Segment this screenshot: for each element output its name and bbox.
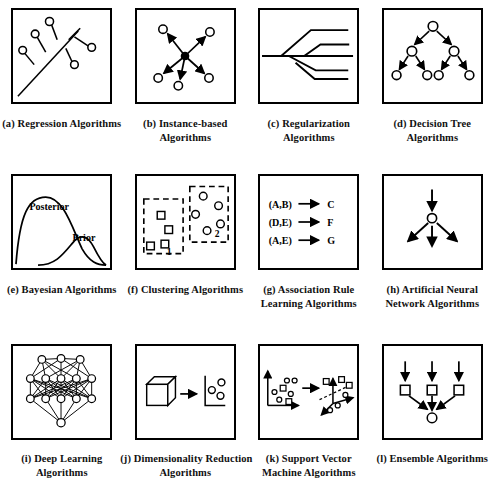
figure-panel-instance-based: (b) Instance-based Algorithms <box>124 0 248 166</box>
panel-caption-instance-based: (b) Instance-based Algorithms <box>124 117 247 145</box>
regression-line-with-residuals-icon <box>13 10 110 102</box>
panel-caption-artificial-neural-network: (h) Artificial Neural Network Algorithms <box>371 283 494 311</box>
figure-panel-decision-tree: (d) Decision Tree Algorithms <box>371 0 494 166</box>
panel-box-instance-based <box>135 8 236 104</box>
figure-panel-regression: (a) Regression Algorithms <box>0 0 124 166</box>
figure-sheet: (a) Regression Algorithms <box>0 0 494 482</box>
panel-caption-bayesian: (e) Bayesian Algorithms <box>0 283 123 297</box>
rule-1-consequent: C <box>327 199 334 210</box>
rule-2-consequent: F <box>327 217 333 228</box>
radiating-arrows-from-center-node-icon <box>137 10 234 102</box>
panel-caption-clustering: (f) Clustering Algorithms <box>124 283 247 297</box>
cluster-one-label: 1 <box>167 246 172 257</box>
implication-rules-icon: (A,B) C (D,E) F (A,E) G <box>260 176 357 268</box>
two-dashed-clusters-icon: 1 2 <box>137 176 234 268</box>
figure-panel-support-vector-machine: (k) Support Vector Machine Algorithms <box>247 336 371 482</box>
figure-panel-bayesian: Posterior Prior (e) Bayesian Algorithms <box>0 166 124 336</box>
rule-3-consequent: G <box>327 235 335 246</box>
figure-panel-artificial-neural-network: (h) Artificial Neural Network Algorithms <box>371 166 494 336</box>
posterior-label: Posterior <box>30 201 70 212</box>
panel-caption-decision-tree: (d) Decision Tree Algorithms <box>371 117 494 145</box>
panel-box-regression <box>11 8 112 104</box>
rule-1-antecedent: (A,B) <box>269 199 292 211</box>
figure-panel-ensemble: (l) Ensemble Algorithms <box>371 336 494 482</box>
2d-scatter-to-3d-hyperplane-icon <box>260 346 357 438</box>
prior-posterior-curves-icon: Posterior Prior <box>13 176 110 268</box>
figure-panel-association-rule: (A,B) C (D,E) F (A,E) G (g) Association … <box>247 166 371 336</box>
binary-tree-with-arrows-icon <box>384 10 481 102</box>
panel-box-association-rule: (A,B) C (D,E) F (A,E) G <box>258 174 359 270</box>
rule-2-antecedent: (D,E) <box>269 217 292 229</box>
cluster-two-label: 2 <box>214 228 219 239</box>
panel-box-ensemble <box>382 344 483 440</box>
rule-3-antecedent: (A,E) <box>269 235 292 247</box>
figure-panel-deep-learning: (i) Deep Learning Algorithms <box>0 336 124 482</box>
three-models-combined-icon <box>384 346 481 438</box>
cube-to-2d-plot-icon <box>137 346 234 438</box>
panel-box-dimensionality-reduction <box>135 344 236 440</box>
panel-box-deep-learning <box>11 344 112 440</box>
panel-box-decision-tree <box>382 8 483 104</box>
figure-panel-regularization: (c) Regularization Algorithms <box>247 0 371 166</box>
panel-caption-ensemble: (l) Ensemble Algorithms <box>371 452 494 466</box>
figure-panel-clustering: 1 2 (f) Clustering Algorithms <box>124 166 248 336</box>
panel-box-artificial-neural-network <box>382 174 483 270</box>
panel-grid: (a) Regression Algorithms <box>0 0 494 482</box>
panel-box-clustering: 1 2 <box>135 174 236 270</box>
prior-label: Prior <box>73 232 96 243</box>
panel-caption-regression: (a) Regression Algorithms <box>0 117 123 131</box>
panel-box-regularization <box>258 8 359 104</box>
dense-multilayer-network-icon <box>13 346 110 438</box>
figure-panel-dimensionality-reduction: (j) Dimensionality Reduction Algorithms <box>124 336 248 482</box>
panel-caption-dimensionality-reduction: (j) Dimensionality Reduction Algorithms <box>120 452 250 480</box>
panel-caption-deep-learning: (i) Deep Learning Algorithms <box>0 452 123 480</box>
panel-caption-association-rule: (g) Association Rule Learning Algorithms <box>247 283 370 311</box>
panel-box-bayesian: Posterior Prior <box>11 174 112 270</box>
branching-shrinkage-paths-icon <box>260 10 357 102</box>
panel-caption-regularization: (c) Regularization Algorithms <box>247 117 370 145</box>
single-neuron-fan-out-icon <box>384 176 481 268</box>
panel-box-support-vector-machine <box>258 344 359 440</box>
panel-caption-support-vector-machine: (k) Support Vector Machine Algorithms <box>247 452 370 480</box>
